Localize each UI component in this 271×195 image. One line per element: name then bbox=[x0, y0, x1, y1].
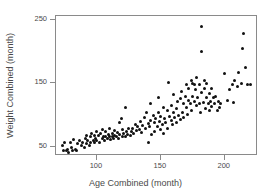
data-point bbox=[75, 149, 78, 152]
data-point bbox=[195, 76, 198, 79]
data-point bbox=[143, 116, 146, 119]
y-tick-label: 50 bbox=[39, 142, 47, 150]
data-point bbox=[242, 32, 245, 35]
data-point bbox=[231, 83, 234, 86]
data-point bbox=[118, 121, 121, 124]
data-point bbox=[237, 71, 240, 74]
data-point bbox=[200, 25, 203, 28]
data-point bbox=[200, 91, 203, 94]
data-point bbox=[162, 106, 165, 109]
data-point bbox=[210, 105, 213, 108]
data-point bbox=[241, 47, 244, 50]
y-axis-title-wrapper: Weight Combined (month) bbox=[0, 0, 20, 170]
data-point bbox=[210, 87, 213, 90]
data-point bbox=[98, 141, 101, 144]
data-point bbox=[180, 90, 183, 93]
data-point bbox=[170, 104, 173, 107]
data-point bbox=[185, 106, 188, 109]
data-point bbox=[149, 119, 152, 122]
data-point bbox=[61, 144, 64, 147]
x-tick-label: 100 bbox=[90, 162, 103, 170]
data-point bbox=[181, 111, 184, 114]
data-point bbox=[173, 116, 176, 119]
data-point bbox=[187, 99, 190, 102]
data-point bbox=[127, 127, 130, 130]
data-point bbox=[150, 133, 153, 136]
data-point bbox=[145, 111, 148, 114]
data-point bbox=[153, 130, 156, 133]
data-point bbox=[89, 135, 92, 138]
data-point bbox=[108, 127, 111, 130]
x-tick-mark bbox=[224, 155, 225, 160]
data-point bbox=[69, 141, 72, 144]
y-tick-label: 150 bbox=[34, 78, 47, 86]
data-point bbox=[132, 132, 135, 135]
data-point bbox=[236, 85, 239, 88]
data-point bbox=[159, 115, 162, 118]
y-tick-label: 250 bbox=[34, 15, 47, 23]
data-point bbox=[244, 66, 247, 69]
scatter-plot-figure: Weight Combined (month) 50150250 1001502… bbox=[0, 0, 271, 195]
data-point bbox=[204, 107, 207, 110]
data-point bbox=[157, 96, 160, 99]
data-point bbox=[218, 106, 221, 109]
data-point bbox=[120, 117, 123, 120]
data-point bbox=[121, 128, 124, 131]
data-point bbox=[179, 97, 182, 100]
data-point bbox=[76, 142, 79, 145]
data-point bbox=[196, 96, 199, 99]
data-point bbox=[205, 96, 208, 99]
data-point bbox=[166, 127, 169, 130]
data-point bbox=[223, 72, 226, 75]
data-point bbox=[228, 88, 231, 91]
data-point bbox=[216, 109, 219, 112]
data-point bbox=[214, 95, 217, 98]
data-point bbox=[219, 102, 222, 105]
data-point bbox=[182, 102, 185, 105]
data-point bbox=[157, 111, 160, 114]
data-point bbox=[162, 132, 165, 135]
data-point bbox=[189, 102, 192, 105]
data-point bbox=[156, 125, 159, 128]
data-point bbox=[199, 111, 202, 114]
data-point bbox=[249, 83, 252, 86]
data-point bbox=[198, 102, 201, 105]
data-point bbox=[140, 131, 143, 134]
data-point bbox=[186, 113, 189, 116]
data-point bbox=[208, 92, 211, 95]
data-point bbox=[193, 83, 196, 86]
data-point bbox=[232, 101, 235, 104]
data-point bbox=[193, 100, 196, 103]
data-point bbox=[233, 79, 236, 82]
data-point bbox=[179, 118, 182, 121]
data-point bbox=[177, 114, 180, 117]
data-point bbox=[175, 121, 178, 124]
data-point bbox=[154, 117, 157, 120]
data-point bbox=[88, 144, 91, 147]
data-point bbox=[159, 128, 162, 131]
data-point bbox=[164, 121, 167, 124]
data-point bbox=[144, 127, 147, 130]
data-point bbox=[191, 95, 194, 98]
data-point bbox=[83, 146, 86, 149]
data-point bbox=[101, 128, 104, 131]
data-point bbox=[148, 125, 151, 128]
data-point bbox=[209, 100, 212, 103]
data-point bbox=[147, 141, 150, 144]
data-point bbox=[78, 139, 81, 142]
data-point bbox=[67, 151, 70, 154]
data-point bbox=[72, 138, 75, 141]
data-point bbox=[170, 119, 173, 122]
data-point bbox=[213, 102, 216, 105]
data-point bbox=[176, 100, 179, 103]
x-tick-mark bbox=[96, 155, 97, 160]
data-point bbox=[95, 130, 98, 133]
data-point bbox=[171, 123, 174, 126]
data-point bbox=[185, 83, 188, 86]
data-point bbox=[208, 109, 211, 112]
data-point bbox=[172, 111, 175, 114]
data-point bbox=[139, 120, 142, 123]
data-point bbox=[175, 107, 178, 110]
data-point bbox=[182, 116, 185, 119]
data-point bbox=[117, 137, 120, 140]
